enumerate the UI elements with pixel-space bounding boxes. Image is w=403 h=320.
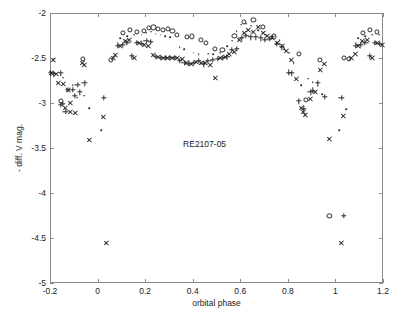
data-point-plus [263,37,268,42]
data-point-circle [170,28,175,33]
data-point-dcirclet [77,97,79,99]
data-point-crcircless [80,60,85,65]
data-point-circle [260,24,265,29]
data-point-circle [134,29,139,34]
data-point-crcircless [141,43,146,48]
data-point-crcircless [339,241,344,246]
data-point-plus [225,54,230,59]
data-point-plus [148,39,153,44]
data-point-dcirclet [322,93,324,95]
data-point-circle [241,19,246,24]
data-point-plus [158,55,163,60]
data-point-plus [60,101,65,106]
data-point-crcircless [137,40,142,45]
data-point-crcircless [208,63,213,68]
data-point-plus [248,35,253,40]
data-point-crcircless [232,49,237,54]
data-point-circle [198,37,203,42]
data-point-plus [239,35,244,40]
data-point-dcirclet [119,37,121,39]
data-point-plus [115,43,120,48]
data-point-plus [182,60,187,65]
data-point-crcircless [348,56,353,61]
data-point-dcirclet [250,25,252,27]
data-point-plus [279,44,284,49]
data-point-plus [274,41,279,46]
data-point-circle [81,56,86,61]
data-point-crcircless [308,96,313,101]
data-point-crcircless [146,44,151,49]
data-point-crcircless [103,241,108,246]
y-axis-tick-label: -4.5 [31,233,46,243]
data-point-dcirclet [279,39,281,41]
data-point-circle [220,47,225,52]
data-point-crcircless [160,56,165,61]
data-point-dcirclet [231,40,233,42]
data-point-crcircless [53,72,58,77]
data-point-crcircless [218,56,223,61]
data-point-plus [82,80,87,85]
plot-annotation-target-name: RE2107-05 [183,139,226,149]
x-axis-tick [335,279,336,283]
data-point-crcircless [241,30,246,35]
y-axis-label: - diff. V mag. [14,124,24,172]
data-point-dcirclet [207,53,209,55]
data-point-dcirclet [141,34,143,36]
data-point-circle [151,25,156,30]
x-axis-tick-label: 1.2 [377,286,389,296]
scatter-data-layer [0,0,403,320]
data-point-crcircless [111,56,116,61]
data-point-circle [251,18,256,23]
data-point-dcirclet [100,129,102,131]
data-point-crcircless [317,67,322,72]
data-point-circle [341,55,346,60]
data-point-dcirclet [146,32,148,34]
data-point-plus [310,88,315,93]
data-point-dcirclet [300,84,302,86]
data-point-crcircless [375,40,380,45]
data-point-crcircless [180,56,185,61]
y-axis-tick [50,283,54,284]
data-point-crcircless [72,110,77,115]
data-point-dcirclet [379,34,381,36]
data-point-circle [108,57,113,62]
data-point-plus [129,53,134,58]
data-point-crcircless [49,71,54,76]
data-point-crcircless [370,56,375,61]
data-point-dcirclet [88,108,90,110]
data-point-crcircless [165,56,170,61]
data-point-circle [156,27,161,32]
x-axis-tick [383,279,384,283]
data-point-dcirclet [184,48,186,50]
x-axis-tick [288,279,289,283]
y-axis-tick-label: -2 [38,8,46,18]
data-point-crcircless [203,61,208,66]
data-point-plus [120,42,125,47]
data-point-plus [353,43,358,48]
data-point-dcirclet [245,23,247,25]
data-point-dcirclet [364,36,366,38]
data-point-plus [372,40,377,45]
data-point-dcirclet [283,48,285,50]
data-point-dcirclet [371,34,373,36]
data-point-crcircless [289,57,294,62]
data-point-circle [232,33,237,38]
data-point-dcirclet [212,54,214,56]
data-point-plus [377,41,382,46]
data-point-dcirclet [193,52,195,54]
data-point-dcirclet [72,84,74,86]
y-axis-tick [50,193,54,194]
x-axis-tick-label: 1 [333,286,338,296]
data-point-plus [362,40,367,45]
data-point-plus [177,58,182,63]
data-point-plus [58,102,63,107]
x-axis-tick-label: 0.6 [234,286,246,296]
data-point-plus [75,82,80,87]
data-point-plus [296,98,301,103]
data-point-crcircless [256,25,261,30]
data-point-circle [296,51,301,56]
data-point-crcircless [365,38,370,43]
data-point-plus [72,93,77,98]
y-axis-tick [50,103,54,104]
x-axis-tick [240,13,241,17]
